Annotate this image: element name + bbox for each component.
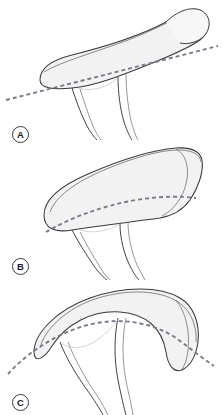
- descending-limb-medial-a: [72, 88, 97, 140]
- descending-limb-lateral-b: [120, 224, 139, 280]
- panel-b-drawing: [0, 140, 224, 280]
- bone-body-shape-b: [44, 148, 202, 231]
- descending-limb-medial-c: [60, 342, 103, 415]
- panel-c-drawing: [0, 280, 224, 415]
- panel-c: [0, 280, 224, 415]
- panel-label-b-text: B: [17, 261, 24, 272]
- panel-label-a-text: A: [17, 129, 24, 140]
- panel-label-c-text: C: [17, 397, 24, 408]
- panel-b: [0, 140, 224, 280]
- descending-limb-lateral-c: [115, 318, 126, 415]
- panel-label-a: A: [12, 126, 29, 143]
- descending-limb-medial-inner-b: [80, 232, 110, 280]
- descending-limb-medial-b: [72, 230, 107, 280]
- descending-limb-lateral-inner-b: [128, 222, 145, 280]
- panel-a: [0, 0, 224, 140]
- descending-limb-lateral-inner-c: [123, 318, 133, 415]
- descending-limb-lateral-a: [118, 77, 132, 140]
- descending-limb-medial-inner-c: [68, 342, 108, 415]
- figure-root: A B C: [0, 0, 224, 415]
- panel-label-c: C: [12, 394, 29, 411]
- panel-label-b: B: [12, 258, 29, 275]
- panel-a-drawing: [0, 0, 224, 140]
- descending-limb-lateral-inner-a: [126, 74, 138, 140]
